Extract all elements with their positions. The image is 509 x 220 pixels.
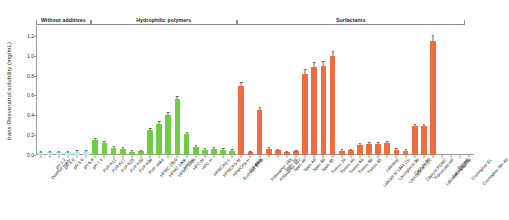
- error-bar-cap: [39, 151, 42, 152]
- error-bar: [213, 148, 214, 149]
- x-tick-mark: [232, 155, 233, 158]
- bar[interactable]: [330, 56, 336, 155]
- error-bar: [159, 122, 160, 124]
- error-bar: [113, 147, 114, 148]
- x-tick-mark: [186, 155, 187, 158]
- group-header-rule: [237, 24, 465, 25]
- x-tick-mark: [305, 155, 306, 158]
- error-bar-cap: [167, 112, 170, 113]
- error-bar: [195, 146, 196, 147]
- error-bar-cap: [368, 142, 371, 143]
- bar[interactable]: [302, 74, 308, 155]
- error-bar: [241, 83, 242, 86]
- bar[interactable]: [412, 126, 418, 155]
- error-bar-cap: [121, 147, 124, 148]
- bar[interactable]: [184, 134, 190, 155]
- error-bar-cap: [267, 147, 270, 148]
- bar[interactable]: [156, 124, 162, 155]
- error-bar-cap: [76, 150, 79, 151]
- error-bar: [369, 143, 370, 144]
- error-bar: [314, 63, 315, 66]
- bar[interactable]: [357, 145, 363, 155]
- bar[interactable]: [421, 126, 427, 155]
- error-bar-cap: [231, 149, 234, 150]
- bar[interactable]: [257, 110, 263, 155]
- bar[interactable]: [92, 140, 98, 155]
- error-bar: [259, 108, 260, 110]
- x-tick-mark: [177, 155, 178, 158]
- error-bar-cap: [377, 142, 380, 143]
- bar[interactable]: [430, 41, 436, 155]
- x-tick-mark: [460, 155, 461, 158]
- error-bar-cap: [350, 149, 353, 150]
- error-bar: [177, 97, 178, 99]
- bar[interactable]: [366, 144, 372, 155]
- error-bar-cap: [204, 148, 207, 149]
- x-tick-mark: [213, 155, 214, 158]
- error-bar-cap: [304, 69, 307, 70]
- error-bar-cap: [295, 150, 298, 151]
- x-tick-mark: [442, 155, 443, 158]
- error-bar: [186, 133, 187, 134]
- error-bar: [104, 142, 105, 143]
- x-tick-mark: [95, 155, 96, 158]
- error-bar: [432, 36, 433, 40]
- error-bar-cap: [222, 148, 225, 149]
- error-bar: [332, 52, 333, 56]
- bar[interactable]: [165, 115, 171, 155]
- group-header-label: Without additives: [36, 17, 91, 23]
- error-bar-cap: [112, 146, 115, 147]
- error-bar-cap: [423, 124, 426, 125]
- error-bar-cap: [58, 151, 61, 152]
- bar[interactable]: [311, 67, 317, 155]
- bar[interactable]: [384, 143, 390, 155]
- error-bar: [387, 142, 388, 143]
- error-bar-cap: [103, 141, 106, 142]
- bar[interactable]: [238, 86, 244, 155]
- y-tick-mark: [34, 135, 37, 136]
- y-axis-title-rest: -Resveratrol solubility (mg/mL): [6, 41, 12, 125]
- bar[interactable]: [375, 144, 381, 155]
- y-axis-line: [36, 26, 37, 155]
- bar[interactable]: [175, 99, 181, 155]
- error-bar: [414, 125, 415, 127]
- error-bar-cap: [158, 121, 161, 122]
- error-bar-cap: [395, 148, 398, 149]
- error-bar-cap: [176, 96, 179, 97]
- x-tick-mark: [332, 155, 333, 158]
- x-tick-label: SLS: [255, 158, 264, 167]
- bar[interactable]: [111, 148, 117, 155]
- y-axis-title: trans-Resveratrol solubility (mg/mL): [4, 26, 14, 155]
- bar[interactable]: [193, 147, 199, 155]
- x-tick-mark: [104, 155, 105, 158]
- x-tick-mark: [268, 155, 269, 158]
- x-tick-mark: [223, 155, 224, 158]
- error-bar-cap: [48, 151, 51, 152]
- error-bar-cap: [240, 82, 243, 83]
- x-tick-mark: [168, 155, 169, 158]
- x-tick-mark: [241, 155, 242, 158]
- error-bar-cap: [140, 150, 143, 151]
- bar[interactable]: [147, 130, 153, 155]
- error-bar-cap: [359, 143, 362, 144]
- error-bar: [168, 113, 169, 115]
- x-tick-mark: [250, 155, 251, 158]
- x-tick-mark: [286, 155, 287, 158]
- x-tick-mark: [387, 155, 388, 158]
- bar[interactable]: [102, 143, 108, 155]
- y-axis-title-italic: trans: [6, 126, 12, 140]
- bar[interactable]: [321, 66, 327, 155]
- y-tick-mark: [34, 115, 37, 116]
- error-bar-cap: [404, 149, 407, 150]
- error-bar: [122, 148, 123, 149]
- group-header: Without additives: [36, 9, 91, 25]
- x-tick-mark: [49, 155, 50, 158]
- x-tick-mark: [432, 155, 433, 158]
- x-tick-mark: [77, 155, 78, 158]
- x-tick-mark: [277, 155, 278, 158]
- error-bar-cap: [258, 107, 261, 108]
- error-bar-cap: [67, 151, 70, 152]
- error-bar-cap: [94, 138, 97, 139]
- error-bar: [423, 125, 424, 127]
